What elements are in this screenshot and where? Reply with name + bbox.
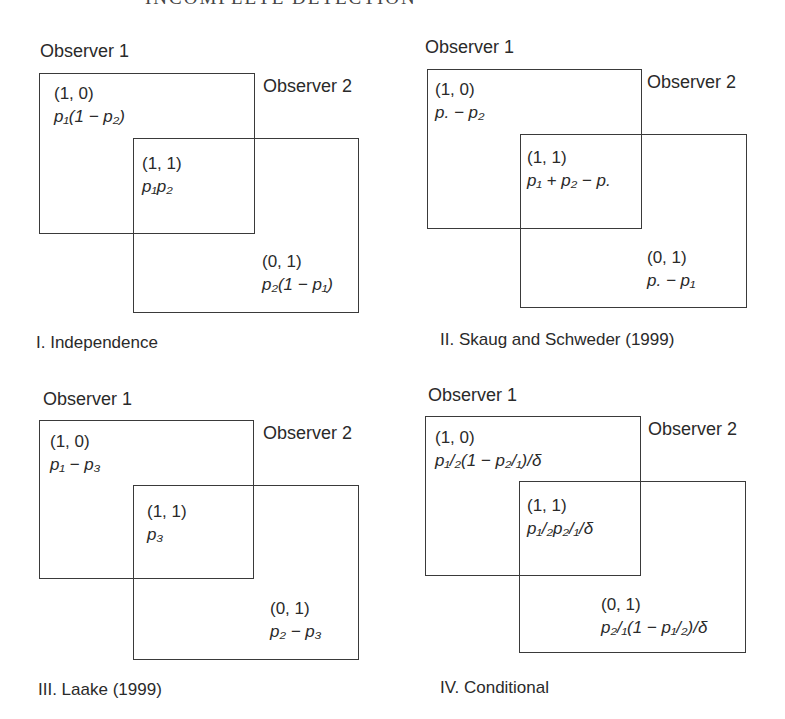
cell-formula: p₁/₂(1 − p₂/₁)/δ <box>435 449 541 472</box>
cell-only-observer1: (1, 0) p₁(1 − p₂) <box>54 82 125 128</box>
cell-formula: p₂/₁(1 − p₁/₂)/δ <box>601 616 707 639</box>
observer1-label: Observer 1 <box>43 389 132 410</box>
cell-only-observer2: (0, 1) p₂/₁(1 − p₁/₂)/δ <box>601 593 707 639</box>
cell-formula: p. − p₂ <box>435 101 485 124</box>
cell-code: (1, 0) <box>435 78 485 101</box>
cell-formula: p₂ − p₃ <box>270 620 322 643</box>
cell-code: (0, 1) <box>262 250 333 273</box>
panel-caption: II. Skaug and Schweder (1999) <box>440 330 674 350</box>
observer2-label: Observer 2 <box>263 423 352 444</box>
cell-formula: p. − p₁ <box>647 269 695 292</box>
cell-formula: p₁/₂p₂/₁/δ <box>527 517 593 540</box>
cell-both-observers: (1, 1) p₁ + p₂ − p. <box>527 146 611 192</box>
panel-caption: III. Laake (1999) <box>38 680 162 700</box>
cell-both-observers: (1, 1) p₁p₂ <box>142 152 182 198</box>
cell-code: (1, 0) <box>435 426 541 449</box>
cell-formula: p₃ <box>147 523 187 546</box>
observer1-label: Observer 1 <box>40 41 129 62</box>
cell-formula: p₁(1 − p₂) <box>54 105 125 128</box>
cell-only-observer1: (1, 0) p₁ − p₃ <box>50 430 100 476</box>
panel-caption: I. Independence <box>36 333 158 353</box>
cell-code: (0, 1) <box>601 593 707 616</box>
observer2-label: Observer 2 <box>263 76 352 97</box>
cell-only-observer1: (1, 0) p₁/₂(1 − p₂/₁)/δ <box>435 426 541 472</box>
cell-code: (1, 1) <box>147 500 187 523</box>
observer2-label: Observer 2 <box>648 419 737 440</box>
cell-both-observers: (1, 1) p₃ <box>147 500 187 546</box>
cell-code: (1, 1) <box>527 494 593 517</box>
cell-formula: p₁p₂ <box>142 175 182 198</box>
cell-formula: p₂(1 − p₁) <box>262 273 333 296</box>
cell-only-observer1: (1, 0) p. − p₂ <box>435 78 485 124</box>
cell-code: (1, 1) <box>142 152 182 175</box>
page-header: INCOMPLETE DETECTION <box>145 0 417 9</box>
observer1-label: Observer 1 <box>425 37 514 58</box>
panel-caption: IV. Conditional <box>440 678 549 698</box>
cell-code: (0, 1) <box>647 246 695 269</box>
observer2-label: Observer 2 <box>647 72 736 93</box>
cell-formula: p₁ + p₂ − p. <box>527 169 611 192</box>
cell-formula: p₁ − p₃ <box>50 453 100 476</box>
cell-code: (0, 1) <box>270 597 322 620</box>
cell-code: (1, 0) <box>50 430 100 453</box>
cell-only-observer2: (0, 1) p. − p₁ <box>647 246 695 292</box>
cell-both-observers: (1, 1) p₁/₂p₂/₁/δ <box>527 494 593 540</box>
cell-only-observer2: (0, 1) p₂ − p₃ <box>270 597 322 643</box>
cell-code: (1, 1) <box>527 146 611 169</box>
cell-only-observer2: (0, 1) p₂(1 − p₁) <box>262 250 333 296</box>
cell-code: (1, 0) <box>54 82 125 105</box>
observer1-label: Observer 1 <box>428 385 517 406</box>
